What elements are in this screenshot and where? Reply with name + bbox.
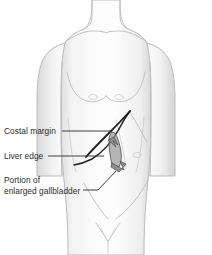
label-enlarged-gallbladder-line2: enlarged gallbladder bbox=[4, 186, 80, 196]
torso-body bbox=[37, 0, 175, 255]
medical-illustration-figure: Costal margin Liver edge Portion of enla… bbox=[0, 0, 212, 255]
torso-diagram-svg: Costal margin Liver edge Portion of enla… bbox=[0, 0, 212, 255]
label-enlarged-gallbladder-line1: Portion of bbox=[4, 175, 41, 185]
label-liver-edge: Liver edge bbox=[4, 151, 44, 161]
label-costal-margin: Costal margin bbox=[4, 126, 56, 136]
